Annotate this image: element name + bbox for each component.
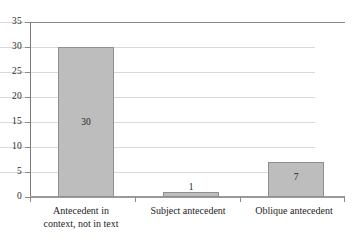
x-tick-mark-2 <box>240 197 241 202</box>
y-tick-label-35: 35 <box>4 16 22 26</box>
bar-chart: 35 30 25 20 15 10 5 0 30 1 7 Antecedent … <box>0 0 352 239</box>
x-category-label-0: Antecedent in context, not in text <box>26 205 136 230</box>
bar-subject-antecedent <box>163 192 219 197</box>
bar-value-label-0: 30 <box>58 117 114 127</box>
y-tick-label-30: 30 <box>4 41 22 51</box>
y-tick-label-5: 5 <box>4 166 22 176</box>
x-tick-mark-1 <box>135 197 136 202</box>
y-tick-label-10: 10 <box>4 141 22 151</box>
y-tick-label-25: 25 <box>4 66 22 76</box>
y-tick-label-20: 20 <box>4 91 22 101</box>
y-tick-label-15: 15 <box>4 116 22 126</box>
bars-container <box>30 22 345 197</box>
x-category-label-1: Subject antecedent <box>133 205 243 218</box>
x-tick-mark-3 <box>344 197 345 202</box>
bar-value-label-1: 1 <box>163 182 219 192</box>
x-tick-mark-0 <box>30 197 31 202</box>
y-tick-label-0: 0 <box>4 191 22 201</box>
x-category-label-2: Oblique antecedent <box>239 205 349 218</box>
bar-value-label-2: 7 <box>268 172 324 182</box>
